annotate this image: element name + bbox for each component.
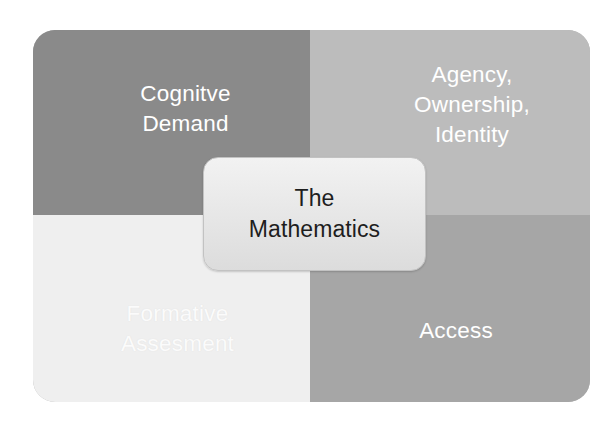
quadrant-top-right-label: Agency, Ownership, Identity <box>414 60 530 150</box>
center-callout-box[interactable]: The Mathematics <box>203 157 426 271</box>
quadrant-bottom-right-label: Access <box>419 316 493 346</box>
center-callout-label: The Mathematics <box>249 183 380 245</box>
quadrant-top-left-label: Cognitve Demand <box>140 79 230 139</box>
quadrant-bottom-left-label: Formative Assesment <box>121 299 234 359</box>
quadrant-diagram: Cognitve Demand Agency, Ownership, Ident… <box>0 0 613 428</box>
